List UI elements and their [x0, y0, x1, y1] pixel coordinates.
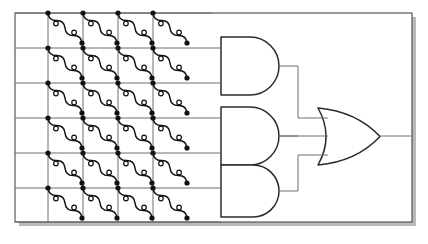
crossbar-cell-r2-c3-open-node-2 [177, 100, 182, 105]
crossbar-cell-r3-c2-terminal-node-in [115, 115, 120, 120]
crossbar-cell-r2-c3-terminal-node-in [150, 80, 155, 85]
crossbar-cell-r4-c1-terminal-node-out [114, 180, 119, 185]
crossbar-cell-r3-c2-open-node-2 [142, 135, 147, 140]
crossbar-cell-r5-c3-open-node-2 [177, 205, 182, 210]
crossbar-cell-r2-c2-terminal-node-out [149, 110, 154, 115]
crossbar-cell-r3-c3-open-node-1 [159, 126, 164, 131]
crossbar-cell-r3-c0-terminal-node-in [45, 115, 50, 120]
and-gate-1[interactable] [221, 37, 279, 95]
crossbar-cell-r0-c2-terminal-node-out [149, 40, 154, 45]
crossbar-cell-r2-c1-open-node-1 [89, 91, 94, 96]
crossbar-cell-r0-c0-open-node-1 [54, 21, 59, 26]
crossbar-cell-r0-c3-terminal-node-out [184, 40, 189, 45]
crossbar-cell-r4-c1-terminal-node-in [80, 150, 85, 155]
crossbar-cell-r3-c3-open-node-2 [177, 135, 182, 140]
crossbar-cell-r5-c2-open-node-1 [124, 196, 129, 201]
crossbar-cell-r4-c3-terminal-node-in [150, 150, 155, 155]
and-gate-2[interactable] [221, 107, 279, 165]
crossbar-cell-r2-c2-terminal-node-in [115, 80, 120, 85]
crossbar-cell-r3-c1-terminal-node-in [80, 115, 85, 120]
crossbar-cell-r0-c3-terminal-node-in [150, 10, 155, 15]
crossbar-cell-r2-c2-open-node-1 [124, 91, 129, 96]
crossbar-cell-r2-c2-open-node-2 [142, 100, 147, 105]
crossbar-cell-r4-c1-open-node-1 [89, 161, 94, 166]
crossbar-cell-r3-c0-terminal-node-out [79, 145, 84, 150]
crossbar-cell-r1-c0-open-node-1 [54, 56, 59, 61]
crossbar-cell-r5-c2-terminal-node-out [149, 215, 154, 220]
crossbar-cell-r5-c1-open-node-1 [89, 196, 94, 201]
crossbar-cell-r0-c1-open-node-2 [107, 30, 112, 35]
crossbar-cell-r3-c1-terminal-node-out [114, 145, 119, 150]
crossbar-cell-r5-c0-open-node-2 [72, 205, 77, 210]
crossbar-cell-r0-c0-open-node-2 [72, 30, 77, 35]
crossbar-cell-r0-c2-open-node-1 [124, 21, 129, 26]
crossbar-cell-r4-c0-terminal-node-in [45, 150, 50, 155]
crossbar-cell-r3-c1-open-node-2 [107, 135, 112, 140]
crossbar-cell-r5-c3-terminal-node-out [184, 215, 189, 220]
crossbar-cell-r0-c2-terminal-node-in [115, 10, 120, 15]
crossbar-cell-r2-c0-terminal-node-out [79, 110, 84, 115]
crossbar-cell-r5-c1-open-node-2 [107, 205, 112, 210]
crossbar-cell-r2-c3-terminal-node-out [184, 110, 189, 115]
crossbar-cell-r1-c3-open-node-1 [159, 56, 164, 61]
crossbar-cell-r2-c0-open-node-2 [72, 100, 77, 105]
crossbar-cell-r1-c2-terminal-node-in [115, 45, 120, 50]
crossbar-cell-r3-c0-open-node-2 [72, 135, 77, 140]
crossbar-cell-r1-c1-open-node-1 [89, 56, 94, 61]
crossbar-cell-r0-c3-open-node-2 [177, 30, 182, 35]
crossbar-cell-r2-c0-open-node-1 [54, 91, 59, 96]
and-gate-3[interactable] [221, 165, 279, 217]
crossbar-cell-r0-c2-open-node-2 [142, 30, 147, 35]
crossbar-cell-r3-c0-open-node-1 [54, 126, 59, 131]
crossbar-cell-r4-c3-terminal-node-out [184, 180, 189, 185]
crossbar-cell-r4-c2-terminal-node-in [115, 150, 120, 155]
crossbar-cell-r5-c1-terminal-node-in [80, 185, 85, 190]
crossbar-cell-r4-c2-terminal-node-out [149, 180, 154, 185]
crossbar-cell-r1-c2-open-node-2 [142, 65, 147, 70]
crossbar-cell-r0-c3-open-node-1 [159, 21, 164, 26]
crossbar-cell-r3-c2-terminal-node-out [149, 145, 154, 150]
crossbar-cell-r1-c0-open-node-2 [72, 65, 77, 70]
crossbar-cell-r3-c1-open-node-1 [89, 126, 94, 131]
crossbar-cell-r0-c0-terminal-node-out [79, 40, 84, 45]
crossbar-cell-r0-c1-terminal-node-in [80, 10, 85, 15]
crossbar-cell-r3-c3-terminal-node-in [150, 115, 155, 120]
crossbar-cell-r5-c3-terminal-node-in [150, 185, 155, 190]
crossbar-cell-r4-c3-open-node-2 [177, 170, 182, 175]
crossbar-cell-r1-c1-terminal-node-in [80, 45, 85, 50]
crossbar-cell-r2-c0-terminal-node-in [45, 80, 50, 85]
crossbar-cell-r1-c0-terminal-node-in [45, 45, 50, 50]
crossbar-cell-r1-c0-terminal-node-out [79, 75, 84, 80]
crossbar-cell-r0-c1-terminal-node-out [114, 40, 119, 45]
crossbar-cell-r4-c0-open-node-1 [54, 161, 59, 166]
crossbar-cell-r2-c1-open-node-2 [107, 100, 112, 105]
crossbar-cell-r1-c2-terminal-node-out [149, 75, 154, 80]
crossbar-cell-r1-c1-terminal-node-out [114, 75, 119, 80]
crossbar-cell-r5-c0-terminal-node-in [45, 185, 50, 190]
figure-canvas [0, 0, 428, 244]
crossbar-cell-r4-c1-open-node-2 [107, 170, 112, 175]
crossbar-cell-r1-c3-terminal-node-in [150, 45, 155, 50]
crossbar-cell-r1-c3-open-node-2 [177, 65, 182, 70]
crossbar-cell-r5-c2-open-node-2 [142, 205, 147, 210]
crossbar-cell-r2-c1-terminal-node-out [114, 110, 119, 115]
circuit-schematic [0, 0, 428, 244]
crossbar-cell-r5-c0-open-node-1 [54, 196, 59, 201]
crossbar-cell-r3-c2-open-node-1 [124, 126, 129, 131]
crossbar-cell-r1-c3-terminal-node-out [184, 75, 189, 80]
crossbar-cell-r0-c0-terminal-node-in [45, 10, 50, 15]
crossbar-cell-r5-c0-terminal-node-out [79, 215, 84, 220]
crossbar-cell-r1-c2-open-node-1 [124, 56, 129, 61]
crossbar-cell-r5-c1-terminal-node-out [114, 215, 119, 220]
crossbar-cell-r4-c2-open-node-2 [142, 170, 147, 175]
crossbar-cell-r5-c3-open-node-1 [159, 196, 164, 201]
crossbar-cell-r0-c1-open-node-1 [89, 21, 94, 26]
crossbar-cell-r1-c1-open-node-2 [107, 65, 112, 70]
crossbar-cell-r4-c3-open-node-1 [159, 161, 164, 166]
crossbar-cell-r3-c3-terminal-node-out [184, 145, 189, 150]
crossbar-cell-r2-c1-terminal-node-in [80, 80, 85, 85]
crossbar-cell-r4-c0-open-node-2 [72, 170, 77, 175]
crossbar-cell-r4-c0-terminal-node-out [79, 180, 84, 185]
crossbar-cell-r2-c3-open-node-1 [159, 91, 164, 96]
crossbar-cell-r5-c2-terminal-node-in [115, 185, 120, 190]
